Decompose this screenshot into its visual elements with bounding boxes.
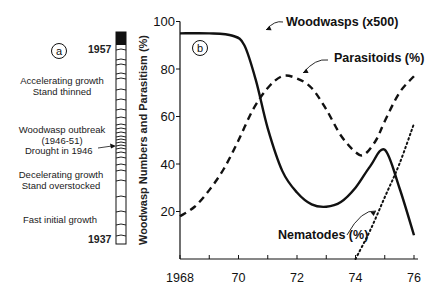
y-tick-label: 60 (161, 109, 175, 124)
y-tick-label: 100 (153, 14, 175, 29)
parasitoids-line (180, 76, 414, 217)
x-tick-label: 70 (232, 271, 246, 285)
panel-b-letter: b (197, 42, 203, 54)
y-tick-label: 80 (161, 62, 175, 77)
x-tick-label: 1968 (166, 271, 194, 285)
x-tick-label: 74 (349, 271, 363, 285)
line-chart: 20406080100196870727476 (0, 0, 440, 297)
x-tick-label: 76 (407, 271, 421, 285)
legend-woodwasps: Woodwasps (x500) (286, 15, 398, 29)
y-tick-label: 20 (161, 204, 175, 219)
y-tick-label: 40 (161, 157, 175, 172)
legend-nematodes: Nematodes (%) (278, 228, 368, 242)
legend-parasitoids: Parasitoids (%) (334, 51, 424, 65)
panel-b-label: b (192, 40, 208, 56)
x-tick-label: 72 (290, 271, 304, 285)
